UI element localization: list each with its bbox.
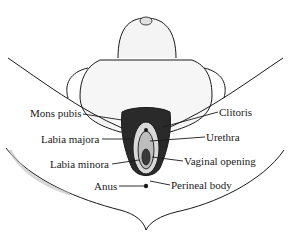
label-clitoris: Clitoris — [219, 106, 252, 118]
label-anus: Anus — [94, 180, 117, 192]
anus-mark — [144, 184, 148, 188]
label-labia-majora: Labia majora — [41, 133, 99, 145]
label-perineal-body: Perineal body — [171, 179, 232, 191]
body-outline-illustration — [0, 0, 291, 247]
label-vaginal-opening: Vaginal opening — [184, 155, 256, 167]
leader-perineal-body — [150, 181, 170, 185]
label-urethra: Urethra — [206, 131, 240, 143]
label-mons-pubis: Mons pubis — [30, 107, 82, 119]
anatomy-diagram: Mons pubis Labia majora Labia minora Anu… — [0, 0, 291, 247]
label-labia-minora: Labia minora — [50, 158, 109, 170]
